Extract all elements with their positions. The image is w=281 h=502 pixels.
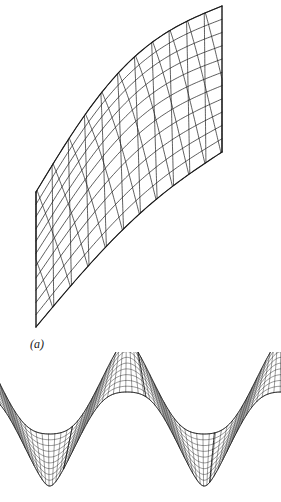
figure-a: (a) (0, 0, 281, 360)
figure-page: (a) ) (0, 0, 281, 502)
figure-b-mesh-lines (0, 352, 281, 486)
figure-b (0, 352, 281, 502)
figure-a-mesh-lines (36, 6, 222, 327)
figure-a-caption: (a) (30, 338, 44, 350)
figure-a-boundary-edges (36, 6, 222, 327)
figure-b-surface-mesh (0, 352, 281, 502)
figure-a-surface-mesh (0, 0, 281, 360)
